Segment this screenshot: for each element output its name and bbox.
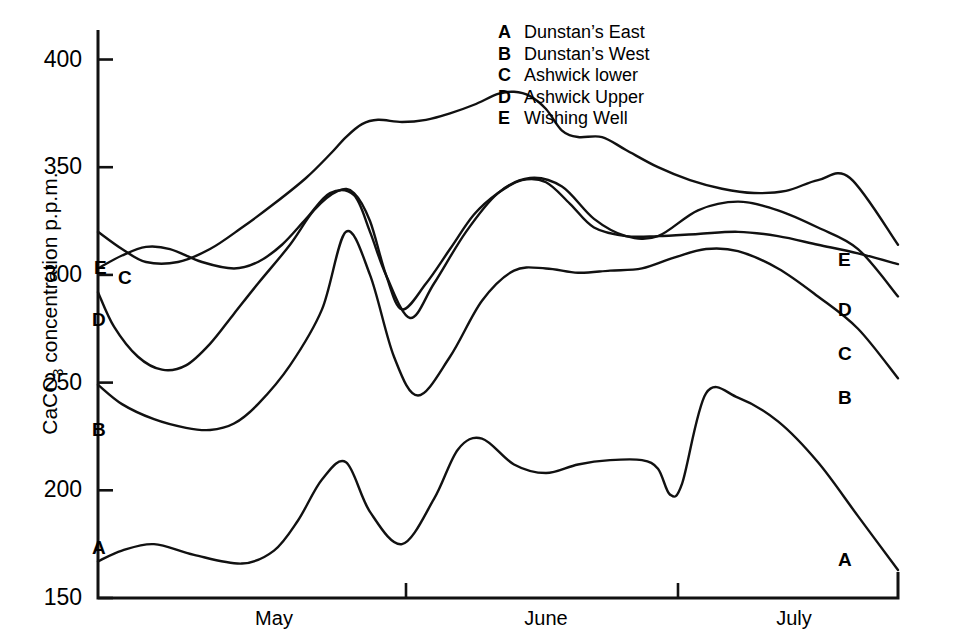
y-tick-label: 400 — [20, 46, 82, 73]
chart-svg — [0, 0, 960, 642]
series-label-left-A: A — [92, 538, 106, 557]
x-tick-label-july: July — [734, 607, 854, 630]
chart-root: CaCO3 concentration p.p.m. 4003503002502… — [0, 0, 960, 642]
legend-key: C — [498, 65, 524, 86]
legend-label: Dunstan’s East — [524, 22, 645, 43]
legend-label: Ashwick lower — [524, 65, 638, 86]
series-label-left-D: D — [92, 310, 106, 329]
series-curve-D — [98, 179, 898, 370]
y-tick-label: 350 — [20, 153, 82, 180]
series-label-right-D: D — [838, 300, 852, 319]
x-tick-label-june: June — [486, 607, 606, 630]
legend-key: D — [498, 87, 524, 108]
legend: ADunstan’s EastBDunstan’s WestCAshwick l… — [498, 22, 649, 130]
series-label-right-E: E — [838, 250, 851, 269]
curve-group — [98, 92, 898, 570]
legend-key: E — [498, 108, 524, 129]
legend-label: Dunstan’s West — [524, 44, 649, 65]
legend-item-c: CAshwick lower — [498, 65, 649, 87]
series-curve-B — [98, 231, 898, 430]
series-label-right-A: A — [838, 550, 852, 569]
series-label-right-B: B — [838, 388, 852, 407]
series-curve-A — [98, 387, 898, 570]
series-curve-C — [98, 178, 898, 318]
legend-key: A — [498, 22, 524, 43]
legend-item-d: DAshwick Upper — [498, 87, 649, 109]
y-tick-label: 300 — [20, 261, 82, 288]
series-label-left-E: E — [94, 258, 107, 277]
legend-label: Wishing Well — [524, 108, 628, 129]
y-tick-label: 250 — [20, 369, 82, 396]
legend-item-a: ADunstan’s East — [498, 22, 649, 44]
legend-label: Ashwick Upper — [524, 87, 644, 108]
series-label-left-B: B — [92, 420, 106, 439]
legend-item-b: BDunstan’s West — [498, 44, 649, 66]
legend-key: B — [498, 44, 524, 65]
y-tick-label: 200 — [20, 476, 82, 503]
y-tick-label: 150 — [20, 584, 82, 611]
legend-item-e: EWishing Well — [498, 108, 649, 130]
x-tick-label-may: May — [214, 607, 334, 630]
y-axis-label: CaCO3 concentration p.p.m. — [38, 134, 65, 474]
series-label-right-C: C — [838, 344, 852, 363]
series-label-left-C: C — [118, 268, 132, 287]
